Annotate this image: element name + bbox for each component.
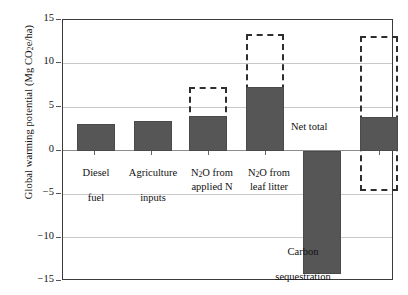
y-tick-10: 10 xyxy=(20,55,54,66)
y-tick-5: 5 xyxy=(20,99,54,110)
gridline-5 xyxy=(63,107,392,108)
bar-n2o-applied-n xyxy=(189,116,227,151)
chart-figure: Global warming potential (Mg CO2e/ha) 15… xyxy=(0,0,408,295)
bar-net-total xyxy=(360,117,398,151)
category-label-n2o-applied-n: N2O fromapplied N xyxy=(181,154,243,194)
category-label-diesel-fuel: Diesel fuel xyxy=(68,154,124,204)
gridline-10 xyxy=(63,63,392,64)
annotation-net-total: Net total xyxy=(291,121,327,132)
carbon-label-line1: Carbon xyxy=(288,246,319,257)
y-tick-0: 0 xyxy=(20,143,54,154)
category-label-n2o-leaf-litter: N2O fromleaf litter xyxy=(238,154,300,194)
y-tick-15: 15 xyxy=(20,12,54,23)
y-tickmark-neg10 xyxy=(56,237,61,238)
bar-n2o-leaf-litter xyxy=(246,87,284,151)
y-tickmark-10 xyxy=(56,62,61,63)
bar-diesel-fuel xyxy=(77,124,115,151)
y-tick-neg5: −5 xyxy=(20,186,54,197)
diesel-label-line1: Diesel xyxy=(83,167,110,178)
category-label-agriculture-inputs: Agriculture inputs xyxy=(119,154,187,204)
agriculture-label-line2: inputs xyxy=(140,192,166,203)
y-tickmark-0 xyxy=(56,150,61,151)
plot-area: Net total Carbon sequestration Diesel fu… xyxy=(62,19,393,280)
y-tickmark-5 xyxy=(56,106,61,107)
carbon-label-line2: sequestration xyxy=(275,271,330,282)
y-tick-neg10: −10 xyxy=(20,230,54,241)
y-tickmark-neg15 xyxy=(56,280,61,281)
bar-agriculture-inputs xyxy=(134,121,172,151)
y-tickmark-15 xyxy=(56,19,61,20)
diesel-label-line2: fuel xyxy=(88,192,104,203)
uncertainty-range-net-total xyxy=(360,36,398,191)
agriculture-label-line1: Agriculture xyxy=(129,167,177,178)
category-label-carbon-sequestration: Carbon sequestration xyxy=(251,233,355,283)
y-tick-neg15: −15 xyxy=(20,273,54,284)
y-tickmark-neg5 xyxy=(56,193,61,194)
